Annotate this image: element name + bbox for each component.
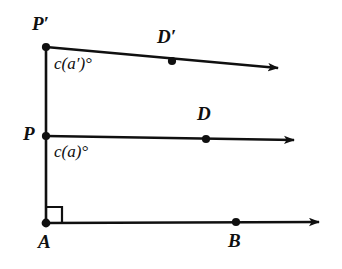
ray-P-D	[46, 136, 294, 140]
point-label-d: D	[197, 104, 211, 123]
point-label-p: P	[23, 124, 35, 143]
angle-label-upper: c(a′)°	[54, 55, 92, 72]
point-marker-D-prime	[168, 57, 176, 65]
angle-label-lower: c(a)°	[54, 143, 88, 160]
point-label-p-prime: P′	[32, 14, 49, 33]
point-marker-P-prime	[42, 43, 50, 51]
point-marker-D	[202, 135, 210, 143]
point-label-d-prime: D′	[157, 27, 176, 46]
geometry-figure: P′ P A D′ D B c(a′)° c(a)°	[0, 0, 342, 269]
ray-A-B	[46, 222, 319, 223]
point-marker-A	[42, 219, 51, 228]
point-marker-B	[232, 218, 240, 226]
ray-group	[46, 47, 319, 223]
point-label-b: B	[228, 231, 241, 250]
point-marker-P	[42, 132, 50, 140]
point-label-a: A	[38, 232, 51, 251]
